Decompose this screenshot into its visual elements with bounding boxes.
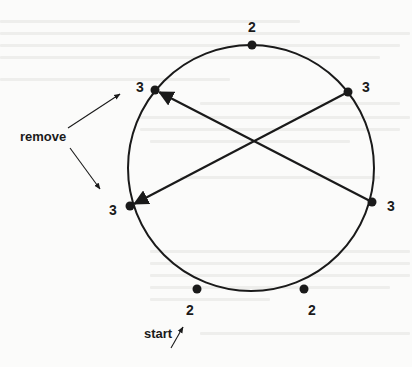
annotation-arrows-group bbox=[68, 94, 183, 348]
node-bottom-left bbox=[193, 285, 202, 294]
chord-top-right-to-left bbox=[134, 92, 348, 204]
diagram-canvas: removestart2333322 bbox=[0, 0, 412, 367]
node-bottom-right bbox=[300, 285, 309, 294]
labels-group: removestart2333322 bbox=[20, 19, 395, 341]
node-label-bottom-left: 2 bbox=[186, 302, 194, 318]
node-label-top-left: 3 bbox=[136, 79, 144, 95]
chord-right-to-top-left bbox=[159, 92, 372, 202]
node-label-bottom-right: 2 bbox=[308, 302, 316, 318]
start-label: start bbox=[144, 326, 173, 341]
remove-label: remove bbox=[20, 129, 66, 144]
chords-group bbox=[134, 92, 372, 204]
nodes-group bbox=[126, 41, 377, 294]
remove-arrow-2 bbox=[70, 148, 100, 189]
cycle-diagram: removestart2333322 bbox=[0, 0, 412, 367]
node-left bbox=[126, 202, 135, 211]
node-top-right bbox=[344, 88, 353, 97]
node-label-top-right: 3 bbox=[362, 79, 370, 95]
node-top-left bbox=[151, 86, 160, 95]
remove-arrow-1 bbox=[68, 94, 120, 128]
node-label-left: 3 bbox=[109, 202, 117, 218]
node-top bbox=[248, 41, 257, 50]
node-right bbox=[368, 198, 377, 207]
node-label-right: 3 bbox=[387, 198, 395, 214]
node-label-top: 2 bbox=[248, 19, 256, 35]
start-arrow-1 bbox=[171, 327, 183, 348]
cycle-circle bbox=[128, 45, 374, 291]
